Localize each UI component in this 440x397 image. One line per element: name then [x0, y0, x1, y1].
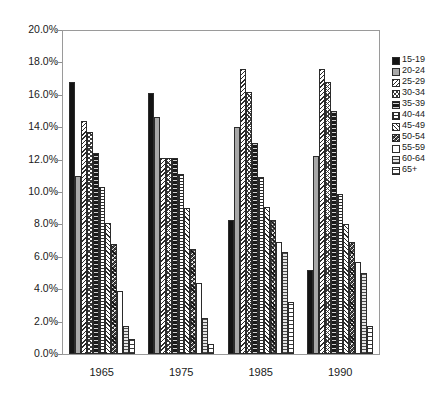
- legend-item-15-19: 15-19: [392, 55, 440, 65]
- bar-1965-50-54: [111, 244, 117, 354]
- bar-1985-35-39: [252, 143, 258, 354]
- x-axis-label-1990: 1990: [300, 366, 380, 378]
- y-axis-tick-label: 14.0%: [4, 121, 58, 131]
- y-axis-tick-mark: [56, 30, 62, 31]
- legend-label: 15-19: [402, 55, 425, 65]
- legend-item-50-54: 50-54: [392, 132, 440, 142]
- bar-group-1990: [307, 30, 373, 354]
- bar-1965-25-29: [81, 121, 87, 354]
- legend-swatch-icon: [392, 57, 400, 65]
- legend-item-60-64: 60-64: [392, 154, 440, 164]
- legend-swatch-icon: [392, 167, 400, 175]
- bar-1965-15-19: [69, 82, 75, 354]
- bar-1985-20-24: [234, 127, 240, 354]
- legend-label: 45-49: [402, 121, 425, 131]
- legend-item-20-24: 20-24: [392, 66, 440, 76]
- legend-item-65+: 65+: [392, 165, 440, 175]
- bar-1985-40-44: [258, 177, 264, 354]
- legend-item-55-59: 55-59: [392, 143, 440, 153]
- y-axis-tick-label: 2.0%: [4, 316, 58, 326]
- bar-1975-65+: [208, 344, 214, 354]
- bar-group-1985: [228, 30, 294, 354]
- legend-label: 35-39: [402, 99, 425, 109]
- bar-chart: 0.0%2.0%4.0%6.0%8.0%10.0%12.0%14.0%16.0%…: [0, 0, 440, 397]
- x-axis-label-1985: 1985: [221, 366, 301, 378]
- bar-1975-20-24: [154, 117, 160, 354]
- legend-label: 40-44: [402, 110, 425, 120]
- y-axis-tick-mark: [56, 127, 62, 128]
- bar-1975-25-29: [160, 158, 166, 354]
- bar-1975-50-54: [190, 249, 196, 354]
- bar-1985-15-19: [228, 220, 234, 354]
- legend-item-30-34: 30-34: [392, 88, 440, 98]
- y-axis-tick-mark: [56, 224, 62, 225]
- y-axis-tick-label: 6.0%: [4, 251, 58, 261]
- legend-label: 60-64: [402, 154, 425, 164]
- bar-1990-20-24: [313, 156, 319, 354]
- bar-1985-50-54: [270, 220, 276, 354]
- bar-group-1965: [69, 30, 135, 354]
- bar-group-1975: [148, 30, 214, 354]
- bar-1985-25-29: [240, 69, 246, 354]
- bar-1990-50-54: [349, 242, 355, 354]
- legend-label: 55-59: [402, 143, 425, 153]
- chart-legend: 15-1920-2425-2930-3435-3940-4445-4950-54…: [392, 55, 440, 176]
- legend-swatch-icon: [392, 68, 400, 76]
- bar-1985-30-34: [246, 92, 252, 354]
- legend-swatch-icon: [392, 112, 400, 120]
- y-axis-tick-label: 18.0%: [4, 56, 58, 66]
- legend-swatch-icon: [392, 123, 400, 131]
- bar-1990-25-29: [319, 69, 325, 354]
- legend-item-35-39: 35-39: [392, 99, 440, 109]
- bar-1965-30-34: [87, 132, 93, 354]
- legend-label: 20-24: [402, 66, 425, 76]
- y-axis-tick-label: 4.0%: [4, 283, 58, 293]
- y-axis-tick-label: 20.0%: [4, 24, 58, 34]
- bar-1985-55-59: [276, 242, 282, 354]
- bar-1990-40-44: [337, 194, 343, 354]
- y-axis-tick-mark: [56, 160, 62, 161]
- y-axis-tick-mark: [56, 192, 62, 193]
- bar-1965-20-24: [75, 176, 81, 354]
- bar-1975-45-49: [184, 208, 190, 354]
- y-axis-tick-label: 8.0%: [4, 218, 58, 228]
- bar-1990-60-64: [361, 273, 367, 354]
- bar-1990-65+: [367, 326, 373, 354]
- bar-1975-55-59: [196, 283, 202, 354]
- bar-1965-65+: [129, 339, 135, 354]
- legend-item-25-29: 25-29: [392, 77, 440, 87]
- legend-swatch-icon: [392, 145, 400, 153]
- bar-1965-45-49: [105, 223, 111, 354]
- y-axis-tick-mark: [56, 354, 62, 355]
- bar-1975-30-34: [166, 158, 172, 354]
- legend-swatch-icon: [392, 134, 400, 142]
- y-axis-tick-mark: [56, 62, 62, 63]
- y-axis-tick-label: 10.0%: [4, 186, 58, 196]
- legend-label: 65+: [402, 165, 417, 175]
- legend-label: 30-34: [402, 88, 425, 98]
- bar-1975-40-44: [178, 174, 184, 354]
- y-axis-tick-mark: [56, 95, 62, 96]
- y-axis-tick-mark: [56, 289, 62, 290]
- bar-1965-40-44: [99, 187, 105, 354]
- bar-1985-65+: [288, 302, 294, 354]
- y-axis-tick-mark: [56, 322, 62, 323]
- y-axis-tick-label: 16.0%: [4, 89, 58, 99]
- legend-swatch-icon: [392, 101, 400, 109]
- bar-1965-35-39: [93, 153, 99, 354]
- bar-1965-60-64: [123, 326, 129, 354]
- legend-swatch-icon: [392, 79, 400, 87]
- bar-1965-55-59: [117, 291, 123, 354]
- y-axis-tick-label: 0.0%: [4, 348, 58, 358]
- y-axis-tick-label: 12.0%: [4, 154, 58, 164]
- bar-1985-45-49: [264, 207, 270, 354]
- bar-1975-35-39: [172, 158, 178, 354]
- x-axis-label-1965: 1965: [62, 366, 142, 378]
- bar-1985-60-64: [282, 252, 288, 354]
- bar-1975-15-19: [148, 93, 154, 354]
- bar-1990-30-34: [325, 82, 331, 354]
- y-axis-tick-mark: [56, 257, 62, 258]
- legend-swatch-icon: [392, 90, 400, 98]
- legend-swatch-icon: [392, 156, 400, 164]
- bar-1990-55-59: [355, 262, 361, 354]
